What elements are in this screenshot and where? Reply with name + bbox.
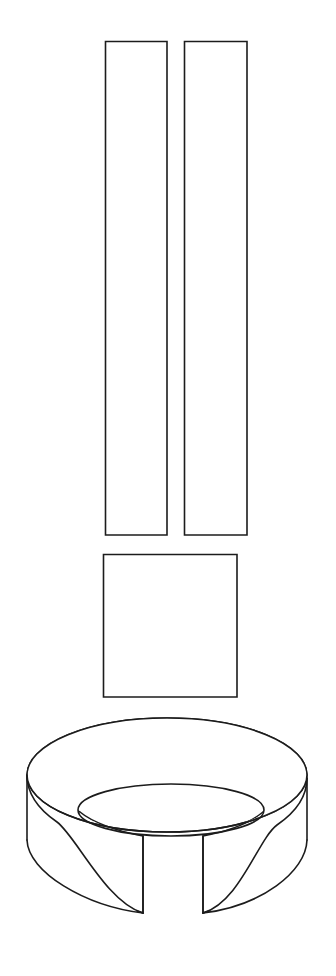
left-vertical-bar <box>106 42 168 536</box>
middle-block <box>104 555 238 698</box>
figure-canvas <box>0 0 336 976</box>
middle-block-outline <box>104 555 238 698</box>
right-vertical-bar <box>185 42 248 536</box>
line-drawing-svg <box>0 0 336 976</box>
left-vertical-bar-outline <box>106 42 168 536</box>
drawing-background <box>0 0 336 976</box>
right-vertical-bar-outline <box>185 42 248 536</box>
